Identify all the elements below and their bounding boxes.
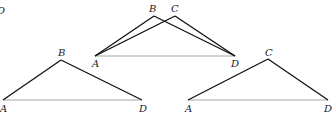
edge-AC bbox=[95, 16, 175, 56]
label-A: A bbox=[91, 58, 99, 69]
triangle-ABD: A B D bbox=[0, 47, 147, 114]
label-B: B bbox=[57, 47, 65, 58]
label-A: A bbox=[184, 103, 192, 114]
edge-CD bbox=[175, 16, 235, 56]
corner-fragment-label: D bbox=[0, 5, 5, 16]
label-D: D bbox=[138, 103, 147, 114]
label-B: B bbox=[148, 3, 156, 14]
edge-BD bbox=[61, 60, 142, 100]
overlay-diagram: A B C D bbox=[91, 3, 239, 69]
triangle-ACD: A C D bbox=[184, 47, 332, 114]
label-A: A bbox=[0, 103, 7, 114]
label-D: D bbox=[323, 103, 332, 114]
edge-BD bbox=[154, 16, 235, 56]
label-D: D bbox=[230, 58, 239, 69]
edge-AC bbox=[188, 59, 268, 100]
label-C: C bbox=[265, 47, 273, 58]
edge-CD bbox=[268, 59, 328, 100]
edge-AB bbox=[3, 60, 61, 100]
triangle-diagram: D A B C D A B D A C D bbox=[0, 0, 332, 115]
edge-AB bbox=[95, 16, 154, 56]
label-C: C bbox=[171, 3, 179, 14]
